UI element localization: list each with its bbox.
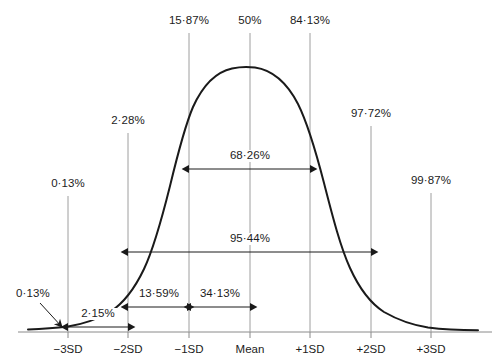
normal-distribution-figure: 0·13% 2·28% 15·87% 50% 84·13% 97·72% 99·… [0, 0, 502, 364]
axis-ticks [68, 332, 431, 338]
interval-label-95: 95·44% [227, 233, 273, 245]
axis-label-minus1sd: −1SD [174, 344, 203, 356]
cumulative-label-mean: 50% [238, 15, 261, 27]
axis-label-plus2sd: +2SD [356, 344, 385, 356]
axis-label-plus3sd: +3SD [416, 344, 445, 356]
tail-callout-pointer [40, 303, 62, 327]
interval-label-215: 2·15% [78, 308, 118, 320]
interval-label-68: 68·26% [227, 150, 273, 162]
cumulative-label-plus1sd: 84·13% [290, 15, 330, 27]
axis-label-mean: Mean [236, 344, 265, 356]
axis-label-minus3sd: −3SD [53, 344, 82, 356]
gridlines [68, 33, 431, 332]
interval-label-3413: 34·13% [197, 288, 243, 300]
tail-callout-label: 0·13% [16, 288, 50, 300]
cumulative-label-minus3sd: 0·13% [51, 178, 85, 190]
bell-curve [28, 67, 478, 330]
cumulative-label-minus2sd: 2·28% [111, 115, 145, 127]
interval-label-1359: 13·59% [136, 288, 182, 300]
axis-label-plus1sd: +1SD [295, 344, 324, 356]
axis-label-minus2sd: −2SD [113, 344, 142, 356]
cumulative-label-plus3sd: 99·87% [411, 175, 451, 187]
cumulative-label-plus2sd: 97·72% [351, 108, 391, 120]
cumulative-label-minus1sd: 15·87% [169, 15, 209, 27]
